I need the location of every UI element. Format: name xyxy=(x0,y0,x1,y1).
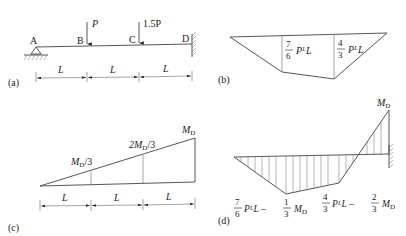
panel-b-moment-diagram: 7 6 PᴸL 4 3 PᴸL (b) xyxy=(218,33,387,86)
beam-line xyxy=(36,44,192,47)
ordinate-label-d-c: 4 3 PᴸL – 2 3 MD xyxy=(322,192,395,214)
panel-a-beam: A B C D P 1.5P L L L (a) xyxy=(8,18,196,89)
svg-text:PᴸL –: PᴸL – xyxy=(243,204,266,214)
span-label-c2: L xyxy=(113,192,120,203)
span-label-2: L xyxy=(109,64,116,75)
svg-text:6: 6 xyxy=(286,51,291,61)
point-label-d: D xyxy=(182,33,189,44)
svg-text:MD: MD xyxy=(381,199,395,211)
ordinate-label-d-b: 7 6 PᴸL – 1 3 MD xyxy=(234,197,307,219)
svg-text:1: 1 xyxy=(284,197,289,207)
svg-text:3: 3 xyxy=(338,50,343,60)
load-label-p: P xyxy=(91,18,98,29)
svg-text:3: 3 xyxy=(323,204,328,214)
panel-c-moment-diagram: MD/3 2MD/3 MD L L L (c) xyxy=(8,124,195,234)
hatching-upper xyxy=(367,122,381,155)
label-md-end: MD xyxy=(181,124,195,137)
label-md-d: MD xyxy=(376,97,390,110)
baseline-d xyxy=(234,154,389,157)
figure: A B C D P 1.5P L L L (a) 7 6 PᴸL xyxy=(0,0,406,236)
label-md-third: MD/3 xyxy=(70,156,92,169)
svg-text:3: 3 xyxy=(372,204,377,214)
load-label-1-5p: 1.5P xyxy=(143,18,162,29)
fixed-wall-icon xyxy=(192,32,196,57)
svg-text:PᴸL –: PᴸL – xyxy=(331,199,354,209)
point-label-c: C xyxy=(129,34,136,45)
point-label-b: B xyxy=(77,35,84,46)
svg-text:6: 6 xyxy=(235,209,240,219)
svg-text:4: 4 xyxy=(338,38,343,48)
moment-curve-d xyxy=(234,110,389,194)
svg-text:2: 2 xyxy=(372,192,377,202)
moment-triangle-c xyxy=(40,138,195,186)
panel-tag-c: (c) xyxy=(8,222,19,234)
panel-d-superposed-moment: MD 7 6 PᴸL – 1 3 MD 4 3 PᴸL – 2 3 MD xyxy=(218,97,395,227)
span-label-1: L xyxy=(57,64,64,75)
svg-text:3: 3 xyxy=(284,209,289,219)
moment-polygon-b xyxy=(230,33,387,79)
label-2md-third: 2MD/3 xyxy=(129,139,155,152)
pin-support-icon xyxy=(24,47,48,60)
span-label-3: L xyxy=(162,63,169,74)
span-label-c3: L xyxy=(165,191,172,202)
svg-text:7: 7 xyxy=(286,39,291,49)
panel-tag-a: (a) xyxy=(8,77,19,89)
panel-tag-d: (d) xyxy=(218,215,230,227)
svg-text:MD: MD xyxy=(293,204,307,216)
point-label-a: A xyxy=(30,35,38,46)
panel-tag-b: (b) xyxy=(218,74,230,86)
svg-text:PᴸL: PᴸL xyxy=(347,44,364,55)
dimension-line-c: L L L xyxy=(40,191,195,211)
ordinate-label-b: 7 6 PᴸL xyxy=(285,39,312,61)
svg-text:4: 4 xyxy=(323,192,328,202)
svg-text:7: 7 xyxy=(235,197,240,207)
svg-text:PᴸL: PᴸL xyxy=(295,45,312,56)
fixed-wall-d-icon xyxy=(389,144,393,168)
span-label-c1: L xyxy=(61,192,68,203)
dimension-line-a: L L L xyxy=(36,63,192,82)
